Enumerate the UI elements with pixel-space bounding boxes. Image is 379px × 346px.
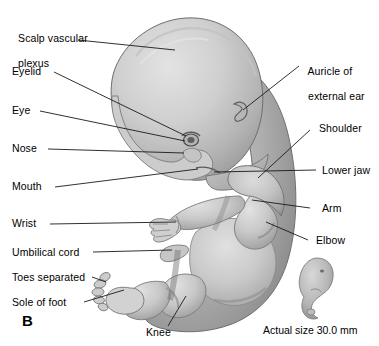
label-toes-separated: Toes separated <box>12 271 85 284</box>
label-auricle-line2: external ear <box>308 90 365 102</box>
sole-of-foot <box>106 287 144 314</box>
label-arm: Arm <box>322 202 342 215</box>
label-auricle-of-external-ear: Auricle of external ear <box>302 52 365 102</box>
actual-size-inset-embryo <box>299 258 333 319</box>
panel-label-b: B <box>22 312 33 329</box>
label-shoulder: Shoulder <box>319 122 362 135</box>
label-umbilical-cord: Umbilical cord <box>12 246 79 259</box>
label-nose: Nose <box>12 142 37 155</box>
eye-pupil <box>187 137 194 143</box>
actual-size-caption: Actual size 30.0 mm <box>263 324 358 336</box>
label-lower-jaw: Lower jaw <box>322 164 370 177</box>
label-knee: Knee <box>146 326 171 339</box>
embryo-illustration <box>92 18 296 332</box>
label-scalp-vascular-plexus: Scalp vascular plexus <box>12 19 88 69</box>
label-wrist: Wrist <box>12 217 36 230</box>
label-auricle-line1: Auricle of <box>307 65 352 77</box>
label-eye: Eye <box>12 104 30 117</box>
label-eyelid: Eyelid <box>12 65 41 78</box>
label-sole-of-foot: Sole of foot <box>12 296 66 309</box>
label-scalp-vascular-plexus-line1: Scalp vascular <box>18 32 88 44</box>
label-elbow: Elbow <box>316 234 345 247</box>
leader-umbilical-cord <box>93 250 172 252</box>
label-mouth: Mouth <box>12 180 42 193</box>
